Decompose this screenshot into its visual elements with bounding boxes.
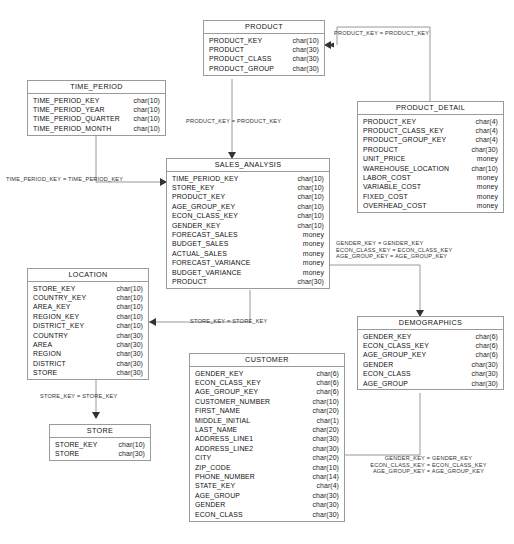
- entity-time_period[interactable]: TIME_PERIODTIME_PERIOD_KEYchar(10)TIME_P…: [27, 80, 166, 136]
- attribute-type: char(6): [316, 378, 339, 387]
- entity-demographics[interactable]: DEMOGRAPHICSGENDER_KEYchar(6)ECON_CLASS_…: [357, 316, 504, 390]
- attribute-name: FIXED_COST: [363, 192, 408, 201]
- attribute-name: AREA_KEY: [33, 302, 71, 311]
- attribute-row: ECON_CLASSchar(30): [190, 510, 344, 519]
- attribute-name: AREA: [33, 340, 52, 349]
- attribute-type: money: [303, 249, 324, 258]
- attribute-type: char(6): [316, 369, 339, 378]
- attribute-row: ECON_CLASS_KEYchar(6): [190, 378, 344, 387]
- attribute-row: AGE_GROUPchar(30): [358, 379, 503, 388]
- attribute-type: money: [303, 268, 324, 277]
- attribute-name: ECON_CLASS_KEY: [195, 378, 261, 387]
- attribute-type: char(30): [117, 349, 143, 358]
- attribute-row: TIME_PERIOD_KEYchar(10): [28, 96, 165, 105]
- er-diagram-canvas: PRODUCTPRODUCT_KEYchar(10)PRODUCTchar(30…: [0, 0, 514, 544]
- attribute-type: char(30): [293, 54, 319, 63]
- attribute-type: money: [477, 182, 498, 191]
- attribute-row: PRODUCT_GROUP_KEYchar(4): [358, 135, 503, 144]
- attribute-name: STATE_KEY: [195, 481, 235, 490]
- attribute-row: PRODUCTchar(30): [167, 277, 329, 286]
- attribute-type: char(30): [298, 277, 324, 286]
- attribute-type: char(30): [472, 145, 498, 154]
- attribute-type: char(30): [472, 369, 498, 378]
- attribute-row: GENDERchar(30): [190, 500, 344, 509]
- attribute-row: STATE_KEYchar(4): [190, 481, 344, 490]
- attribute-name: LAST_NAME: [195, 425, 237, 434]
- entity-title-time_period: TIME_PERIOD: [28, 81, 165, 94]
- entity-customer[interactable]: CUSTOMERGENDER_KEYchar(6)ECON_CLASS_KEYc…: [189, 353, 345, 522]
- attribute-type: money: [303, 230, 324, 239]
- attribute-list: PRODUCT_KEYchar(10)PRODUCTchar(30)PRODUC…: [204, 34, 324, 75]
- attribute-row: ACTUAL_SALESmoney: [167, 249, 329, 258]
- attribute-type: char(10): [117, 284, 143, 293]
- arrowhead-store-top: [92, 412, 100, 419]
- attribute-row: FORECAST_SALESmoney: [167, 230, 329, 239]
- attribute-type: char(10): [313, 397, 339, 406]
- attribute-type: char(4): [316, 481, 339, 490]
- attribute-row: TIME_PERIOD_YEARchar(10): [28, 105, 165, 114]
- entity-title-product: PRODUCT: [204, 21, 324, 34]
- attribute-name: PRODUCT_KEY: [172, 192, 225, 201]
- attribute-name: DISTRICT: [33, 359, 66, 368]
- attribute-name: REGION: [33, 349, 61, 358]
- attribute-type: char(30): [119, 449, 145, 458]
- attribute-name: GENDER: [195, 500, 225, 509]
- attribute-type: money: [303, 239, 324, 248]
- attribute-list: TIME_PERIOD_KEYchar(10)STORE_KEYchar(10)…: [167, 172, 329, 288]
- attribute-name: FORECAST_VARIANCE: [172, 258, 251, 267]
- attribute-list: STORE_KEYchar(10)COUNTRY_KEYchar(10)AREA…: [28, 282, 148, 379]
- entity-title-customer: CUSTOMER: [190, 354, 344, 367]
- attribute-type: char(4): [475, 135, 498, 144]
- attribute-type: char(10): [134, 114, 160, 123]
- attribute-name: CUSTOMER_NUMBER: [195, 397, 270, 406]
- attribute-type: char(30): [472, 379, 498, 388]
- attribute-row: FIXED_COSTmoney: [358, 192, 503, 201]
- attribute-name: ZIP_CODE: [195, 463, 231, 472]
- attribute-name: FIRST_NAME: [195, 406, 240, 415]
- attribute-row: FIRST_NAMEchar(20): [190, 406, 344, 415]
- entity-title-product_detail: PRODUCT_DETAIL: [358, 102, 503, 115]
- attribute-name: FORECAST_SALES: [172, 230, 238, 239]
- attribute-row: VARIABLE_COSTmoney: [358, 182, 503, 191]
- attribute-type: char(10): [293, 36, 319, 45]
- entity-product[interactable]: PRODUCTPRODUCT_KEYchar(10)PRODUCTchar(30…: [203, 20, 325, 76]
- attribute-name: PHONE_NUMBER: [195, 472, 255, 481]
- attribute-name: DISTRICT_KEY: [33, 321, 84, 330]
- attribute-name: COUNTRY: [33, 331, 68, 340]
- attribute-row: AGE_GROUP_KEYchar(10): [167, 202, 329, 211]
- attribute-name: PRODUCT_GROUP_KEY: [363, 135, 446, 144]
- attribute-name: COUNTRY_KEY: [33, 293, 86, 302]
- attribute-row: ZIP_CODEchar(10): [190, 463, 344, 472]
- attribute-type: char(30): [472, 360, 498, 369]
- attribute-type: char(10): [119, 440, 145, 449]
- entity-location[interactable]: LOCATIONSTORE_KEYchar(10)COUNTRY_KEYchar…: [27, 268, 149, 380]
- attribute-list: GENDER_KEYchar(6)ECON_CLASS_KEYchar(6)AG…: [190, 367, 344, 521]
- attribute-row: ADDRESS_LINE1char(30): [190, 434, 344, 443]
- entity-store[interactable]: STORESTORE_KEYchar(10)STOREchar(30): [49, 424, 151, 461]
- attribute-row: LAST_NAMEchar(20): [190, 425, 344, 434]
- attribute-row: BUDGET_SALESmoney: [167, 239, 329, 248]
- attribute-name: PRODUCT: [172, 277, 207, 286]
- attribute-row: GENDER_KEYchar(6): [190, 369, 344, 378]
- arrowhead-location-right: [149, 318, 156, 326]
- attribute-row: AGE_GROUPchar(30): [190, 491, 344, 500]
- attribute-type: char(10): [117, 293, 143, 302]
- attribute-type: char(10): [298, 174, 324, 183]
- attribute-row: AGE_GROUP_KEYchar(6): [358, 350, 503, 359]
- entity-sales_analysis[interactable]: SALES_ANALYSISTIME_PERIOD_KEYchar(10)STO…: [166, 158, 330, 289]
- attribute-type: char(14): [313, 472, 339, 481]
- attribute-list: STORE_KEYchar(10)STOREchar(30): [50, 438, 150, 460]
- attribute-name: BUDGET_SALES: [172, 239, 229, 248]
- attribute-name: PRODUCT: [363, 145, 398, 154]
- attribute-name: ACTUAL_SALES: [172, 249, 227, 258]
- attribute-name: AGE_GROUP_KEY: [363, 350, 426, 359]
- attribute-name: CITY: [195, 453, 211, 462]
- attribute-type: char(10): [298, 221, 324, 230]
- attribute-name: ECON_CLASS_KEY: [172, 211, 238, 220]
- attribute-type: char(30): [117, 368, 143, 377]
- rel-product-sales: PRODUCT_KEY = PRODUCT_KEY: [186, 118, 316, 125]
- entity-product_detail[interactable]: PRODUCT_DETAILPRODUCT_KEYchar(4)PRODUCT_…: [357, 101, 504, 213]
- attribute-row: REGIONchar(30): [28, 349, 148, 358]
- attribute-type: char(10): [117, 302, 143, 311]
- attribute-row: TIME_PERIOD_QUARTERchar(10): [28, 114, 165, 123]
